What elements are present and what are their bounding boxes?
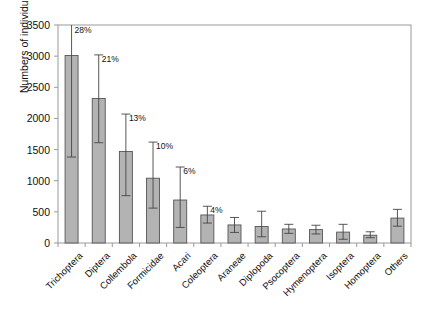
- bar-percent-label: 28%: [75, 25, 92, 35]
- y-tick-label: 1500: [16, 144, 50, 156]
- y-tick-label: 1000: [16, 175, 50, 187]
- y-tick-label: 2000: [16, 112, 50, 124]
- bar-percent-label: 21%: [102, 54, 119, 64]
- y-tick-label: 2500: [16, 81, 50, 93]
- y-tick-label: 0: [16, 237, 50, 249]
- bars-group: [65, 56, 404, 243]
- y-tick-label: 500: [16, 206, 50, 218]
- bar-percent-label: 10%: [156, 141, 173, 151]
- bar-percent-label: 13%: [129, 113, 146, 123]
- bar-chart-figure: Numbers of individuals 05001000150020002…: [0, 0, 425, 313]
- y-tick-label: 3500: [16, 19, 50, 31]
- y-tick-label: 3000: [16, 50, 50, 62]
- bar-percent-label: 4%: [210, 205, 222, 215]
- bar-percent-label: 6%: [183, 166, 195, 176]
